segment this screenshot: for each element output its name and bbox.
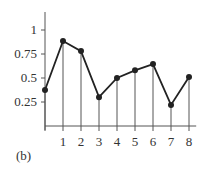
y-tick-label: 0.25 bbox=[14, 94, 37, 109]
stems bbox=[45, 41, 189, 131]
tick-labels: 0.250.50.75112345678 bbox=[14, 22, 192, 149]
y-tick-label: 0.75 bbox=[14, 46, 37, 61]
x-tick-label: 3 bbox=[96, 134, 103, 149]
data-point bbox=[60, 38, 66, 44]
data-point bbox=[168, 102, 174, 108]
x-tick-label: 2 bbox=[78, 134, 85, 149]
data-point bbox=[132, 67, 138, 73]
data-point bbox=[150, 61, 156, 67]
data-point bbox=[186, 74, 192, 80]
x-tick-label: 1 bbox=[60, 134, 67, 149]
data-point bbox=[42, 87, 48, 93]
data-point bbox=[78, 48, 84, 54]
y-tick-label: 0.5 bbox=[21, 70, 37, 85]
x-tick-label: 6 bbox=[150, 134, 157, 149]
x-tick-label: 4 bbox=[114, 134, 121, 149]
data-point bbox=[96, 94, 102, 100]
axes bbox=[41, 12, 196, 130]
stem-line-chart: 0.250.50.75112345678 bbox=[0, 0, 205, 170]
figure-caption: (b) bbox=[16, 148, 31, 164]
x-tick-label: 8 bbox=[186, 134, 193, 149]
data-point bbox=[114, 75, 120, 81]
x-tick-label: 5 bbox=[132, 134, 139, 149]
x-tick-label: 7 bbox=[168, 134, 175, 149]
y-tick-label: 1 bbox=[31, 22, 38, 37]
